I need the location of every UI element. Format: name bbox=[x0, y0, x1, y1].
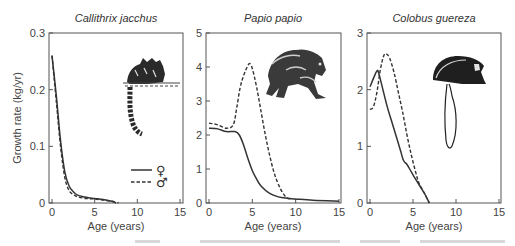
legend: ♀ ♂ bbox=[131, 163, 168, 190]
colobus-illustration-icon bbox=[433, 56, 486, 148]
x-tick-label: 10 bbox=[131, 206, 143, 218]
y-tick-label: 2 bbox=[357, 84, 363, 96]
male-curve bbox=[370, 54, 429, 203]
figure: Growth rate (kg/yr) Callithrix jacchus 0… bbox=[0, 0, 515, 246]
marmoset-illustration-icon bbox=[123, 58, 180, 134]
panel-colobus-guereza: Colobus guereza 0510150123 Age (years) bbox=[357, 12, 505, 232]
panel-title: Papio papio bbox=[244, 12, 302, 24]
x-tick-label: 0 bbox=[367, 206, 373, 218]
curves bbox=[52, 56, 119, 203]
y-tick-label: 3 bbox=[357, 27, 363, 39]
x-axis-label: Age (years) bbox=[406, 220, 463, 232]
caption-fragment bbox=[135, 240, 505, 243]
axis-ticks: 0510150123 bbox=[357, 27, 505, 218]
x-tick-label: 5 bbox=[92, 206, 98, 218]
panel-papio-papio: Papio papio 051015012345 Age (years) bbox=[196, 12, 345, 232]
y-tick-label: 4 bbox=[196, 61, 202, 73]
y-tick-label: 1 bbox=[196, 163, 202, 175]
x-tick-label: 15 bbox=[493, 206, 505, 218]
female-curve bbox=[370, 70, 429, 203]
y-tick-label: 1 bbox=[357, 140, 363, 152]
x-tick-label: 10 bbox=[290, 206, 302, 218]
x-tick-label: 5 bbox=[410, 206, 416, 218]
axis-ticks: 051015012345 bbox=[196, 27, 345, 218]
plot-frame bbox=[367, 33, 501, 203]
x-tick-label: 15 bbox=[333, 206, 345, 218]
female-curve bbox=[52, 56, 116, 203]
x-axis-label: Age (years) bbox=[88, 220, 145, 232]
y-tick-label: 0.2 bbox=[30, 84, 45, 96]
y-tick-label: 5 bbox=[196, 27, 202, 39]
baboon-illustration-icon bbox=[266, 49, 326, 99]
y-tick-label: 0 bbox=[196, 197, 202, 209]
male-curve bbox=[52, 56, 119, 203]
panel-title: Colobus guereza bbox=[392, 12, 475, 24]
panel-callithrix-jacchus: Callithrix jacchus 05101500.10.20.3 Age … bbox=[30, 12, 186, 232]
y-tick-label: 0.3 bbox=[30, 27, 45, 39]
panel-title: Callithrix jacchus bbox=[75, 12, 158, 24]
curves bbox=[370, 54, 429, 203]
y-axis-label: Growth rate (kg/yr) bbox=[11, 72, 23, 164]
x-axis-label: Age (years) bbox=[245, 220, 302, 232]
x-tick-label: 5 bbox=[249, 206, 255, 218]
y-tick-label: 0.1 bbox=[30, 140, 45, 152]
y-tick-label: 0 bbox=[357, 197, 363, 209]
y-tick-label: 2 bbox=[196, 129, 202, 141]
x-tick-label: 15 bbox=[174, 206, 186, 218]
y-tick-label: 3 bbox=[196, 95, 202, 107]
x-tick-label: 0 bbox=[49, 206, 55, 218]
x-tick-label: 0 bbox=[206, 206, 212, 218]
legend-male-symbol: ♂ bbox=[156, 175, 168, 190]
female-curve bbox=[209, 128, 339, 201]
y-tick-label: 0 bbox=[39, 197, 45, 209]
x-tick-label: 10 bbox=[450, 206, 462, 218]
